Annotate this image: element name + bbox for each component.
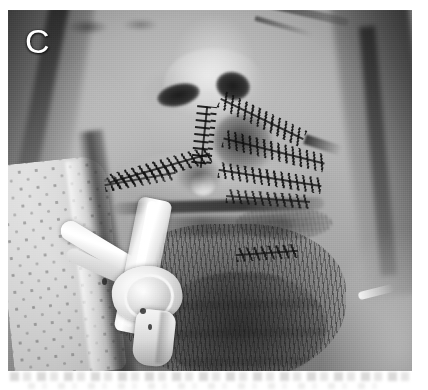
caption-remnant-line-2 (28, 383, 384, 389)
dark-marks-upper-left (66, 16, 186, 38)
tube-marking-b (140, 308, 146, 314)
tube-marking-c (148, 324, 152, 330)
caption-remnant-line-1 (10, 372, 414, 381)
figure-root: C (0, 0, 428, 390)
wound-crusting-central (176, 158, 222, 192)
panel-label: C (25, 24, 50, 58)
clinical-photograph: C (8, 10, 412, 371)
tube-marking-a (102, 278, 107, 285)
beard-stubble-dense (158, 272, 326, 371)
moustache-right (236, 206, 332, 240)
